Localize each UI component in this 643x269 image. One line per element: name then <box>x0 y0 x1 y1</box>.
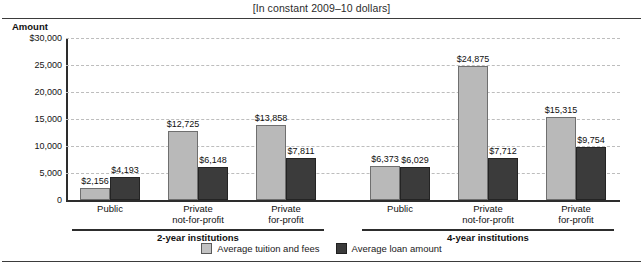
bar-tuition <box>80 188 110 200</box>
x-axis-category-label: Privatefor-profit <box>522 204 630 225</box>
gridline <box>66 38 620 39</box>
bar-loan <box>286 158 316 200</box>
bar-tuition <box>168 131 198 200</box>
gridline <box>66 65 620 66</box>
y-axis-tick-label: 10,000 <box>34 141 62 151</box>
legend-swatch-loan-icon <box>336 243 347 254</box>
group-label: 4-year institutions <box>362 232 614 243</box>
bar-loan <box>198 167 228 200</box>
bar-value-label: $4,193 <box>101 165 149 175</box>
chart-subtitle: [In constant 2009–10 dollars] <box>0 2 643 14</box>
y-axis-tick-labels: $30,00025,00020,00015,00010,0005,0000 <box>0 38 62 201</box>
legend-item-tuition: Average tuition and fees <box>201 243 319 254</box>
legend-item-loan: Average loan amount <box>336 243 442 254</box>
gridline <box>66 173 620 174</box>
y-axis-tick-label: 20,000 <box>34 87 62 97</box>
bar-value-label: $6,148 <box>189 155 237 165</box>
bar-tuition <box>458 66 488 200</box>
gridline <box>66 92 620 93</box>
bar-tuition <box>370 166 400 200</box>
y-axis-title: Amount <box>12 21 48 32</box>
bar-value-label: $13,858 <box>247 113 295 123</box>
chart-legend: Average tuition and fees Average loan am… <box>0 243 643 254</box>
bar-loan <box>576 147 606 200</box>
y-axis-tick-label: $30,000 <box>29 33 62 43</box>
bar-value-label: $12,725 <box>159 119 207 129</box>
bar-value-label: $24,875 <box>449 54 497 64</box>
bar-loan <box>400 167 430 200</box>
bar-tuition <box>256 125 286 200</box>
bar-loan <box>110 177 140 200</box>
bar-value-label: $9,754 <box>567 135 615 145</box>
gridline <box>66 119 620 120</box>
bar-value-label: $7,712 <box>479 146 527 156</box>
top-divider <box>2 18 641 19</box>
x-axis-category-label: Privatefor-profit <box>232 204 340 225</box>
gridline <box>66 146 620 147</box>
y-axis-tick-label: 5,000 <box>39 168 62 178</box>
x-axis-line <box>66 200 620 202</box>
bar-loan <box>488 158 518 200</box>
legend-label-tuition: Average tuition and fees <box>217 243 319 254</box>
legend-label-loan: Average loan amount <box>352 243 442 254</box>
bottom-divider <box>2 261 641 262</box>
group-label: 2-year institutions <box>72 232 324 243</box>
bar-value-label: $6,029 <box>391 155 439 165</box>
group-bracket-line <box>362 229 614 231</box>
bar-value-label: $7,811 <box>277 146 325 156</box>
plot-area: $2,156$4,193$12,725$6,148$13,858$7,811$6… <box>66 38 620 200</box>
y-axis-tick-label: 15,000 <box>34 114 62 124</box>
group-bracket-line <box>72 229 324 231</box>
bar-tuition <box>546 117 576 200</box>
bar-value-label: $15,315 <box>537 105 585 115</box>
legend-swatch-tuition-icon <box>201 243 212 254</box>
y-axis-tick-label: 25,000 <box>34 60 62 70</box>
